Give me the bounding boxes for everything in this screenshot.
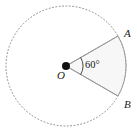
point-label-A: A (124, 28, 131, 39)
point-label-B: B (124, 99, 131, 110)
geometry-canvas (0, 0, 137, 132)
point-label-O: O (57, 70, 65, 81)
geometry-figure: O A B 60° (0, 0, 137, 132)
angle-measure-label: 60° (85, 60, 100, 71)
